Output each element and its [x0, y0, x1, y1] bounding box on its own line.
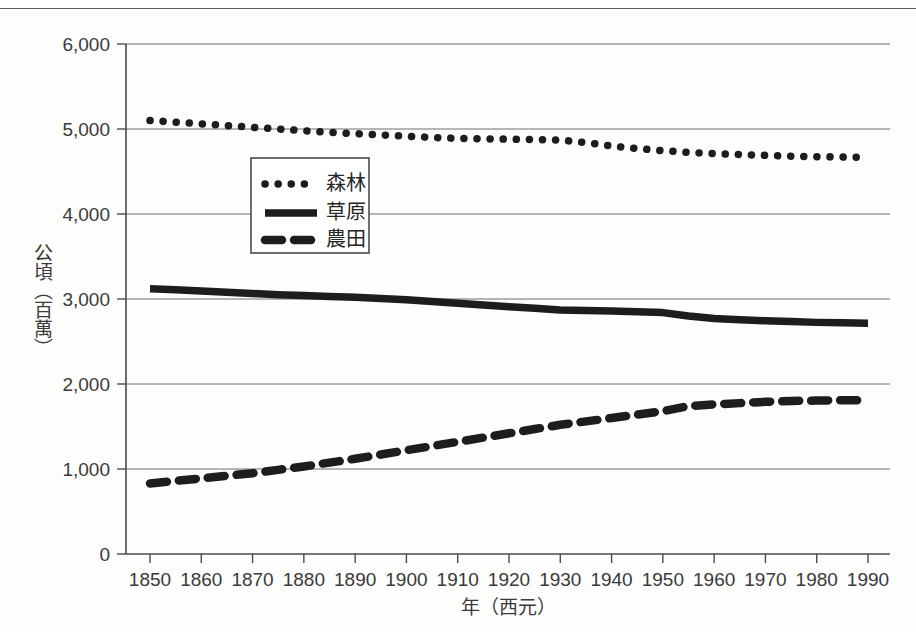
- x-axis-ticks: 1850186018701880189019001910192019301940…: [129, 554, 889, 590]
- x-tick-label: 1960: [693, 569, 735, 590]
- x-tick-label: 1900: [385, 569, 427, 590]
- x-tick-label: 1890: [334, 569, 376, 590]
- x-tick-label: 1910: [437, 569, 479, 590]
- gridlines: [126, 44, 890, 469]
- legend-label: 森林: [326, 172, 366, 194]
- x-tick-label: 1930: [539, 569, 581, 590]
- legend-label: 農田: [326, 228, 366, 250]
- legend-label: 草原: [326, 201, 366, 223]
- chart-legend: 森林草原農田: [251, 158, 369, 253]
- x-tick-label: 1870: [231, 569, 273, 590]
- y-tick-label: 4,000: [62, 204, 110, 225]
- series-line-dotted: [150, 121, 868, 158]
- x-tick-label: 1990: [847, 569, 889, 590]
- series-line-dashed: [150, 400, 868, 483]
- x-tick-label: 1860: [180, 569, 222, 590]
- x-tick-label: 1920: [488, 569, 530, 590]
- line-chart-plot: 01,0002,0003,0004,0005,0006,000 18501860…: [0, 0, 916, 632]
- y-tick-label: 3,000: [62, 289, 110, 310]
- y-axis-ticks: 01,0002,0003,0004,0005,0006,000: [62, 34, 126, 565]
- x-tick-label: 1940: [590, 569, 632, 590]
- chart-figure: 公頃（百萬） 01,0002,0003,0004,0005,0006,000 1…: [0, 0, 916, 632]
- series-line-solid: [150, 289, 868, 323]
- x-tick-label: 1980: [796, 569, 838, 590]
- x-tick-label: 1950: [642, 569, 684, 590]
- x-tick-label: 1880: [283, 569, 325, 590]
- x-axis-title: 年（西元）: [461, 597, 556, 618]
- y-tick-label: 6,000: [62, 34, 110, 55]
- y-tick-label: 5,000: [62, 119, 110, 140]
- x-tick-label: 1850: [129, 569, 171, 590]
- y-tick-label: 2,000: [62, 374, 110, 395]
- x-tick-label: 1970: [744, 569, 786, 590]
- y-tick-label: 1,000: [62, 459, 110, 480]
- y-tick-label: 0: [99, 544, 110, 565]
